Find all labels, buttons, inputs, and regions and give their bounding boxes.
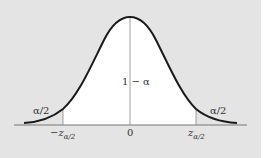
left-critical-label: −zα/2 — [50, 128, 75, 138]
left-tail-label: α/2 — [33, 106, 49, 116]
center-area-label: 1 − α — [122, 77, 150, 87]
zero-label: 0 — [127, 128, 133, 138]
right-critical-label: zα/2 — [188, 128, 205, 138]
center-region — [63, 17, 196, 125]
right-tail-label: α/2 — [210, 106, 226, 116]
